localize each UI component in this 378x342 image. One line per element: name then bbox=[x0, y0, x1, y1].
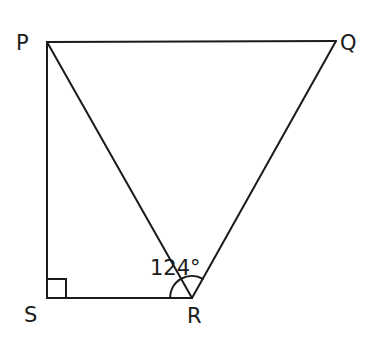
geometry-diagram: P Q S R 124° bbox=[0, 0, 378, 342]
segment-pq bbox=[47, 41, 336, 42]
vertex-label-q: Q bbox=[340, 31, 357, 55]
angle-value-label: 124° bbox=[150, 256, 201, 280]
vertex-label-p: P bbox=[16, 31, 29, 55]
vertex-label-r: R bbox=[187, 304, 202, 328]
vertex-label-s: S bbox=[24, 303, 37, 327]
right-angle-marker bbox=[47, 279, 66, 298]
segment-qr bbox=[192, 41, 336, 298]
